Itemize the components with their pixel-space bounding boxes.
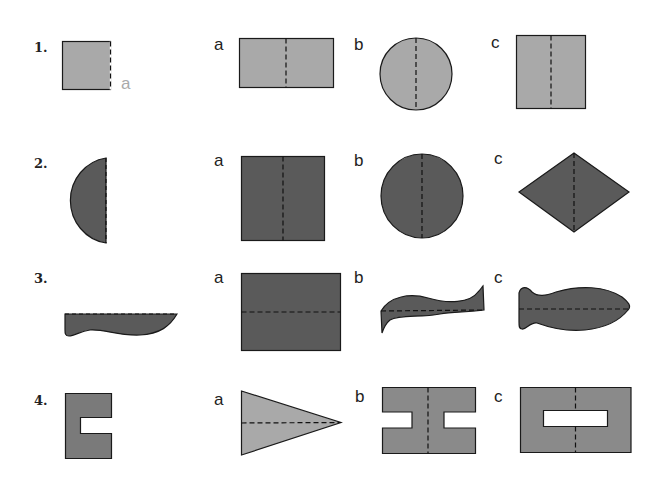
question-4-option-c-rectangle-with-slot[interactable]: [0, 0, 658, 484]
